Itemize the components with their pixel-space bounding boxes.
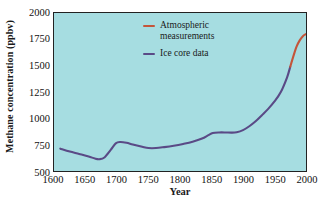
x-axis-title: Year bbox=[53, 186, 307, 197]
methane-concentration-chart: Methane concentration (ppbv) 50075010001… bbox=[0, 0, 329, 213]
x-tick-label-1850: 1850 bbox=[192, 174, 232, 185]
x-tick-label-2000: 2000 bbox=[287, 174, 327, 185]
curve-ice-core bbox=[60, 67, 290, 160]
legend-label-ice-core: Ice core data bbox=[160, 48, 209, 59]
x-tick-label-1900: 1900 bbox=[224, 174, 264, 185]
chart-legend: Atmospheric measurements Ice core data bbox=[143, 20, 258, 66]
y-axis-title: Methane concentration (ppbv) bbox=[0, 0, 18, 172]
curve-atmospheric bbox=[290, 34, 306, 67]
legend-swatch-ice-core bbox=[143, 53, 155, 56]
x-tick-label-1800: 1800 bbox=[160, 174, 200, 185]
x-tick-label-1650: 1650 bbox=[65, 174, 105, 185]
x-tick-label-1950: 1950 bbox=[255, 174, 295, 185]
x-tick-label-1700: 1700 bbox=[97, 174, 137, 185]
y-axis-title-text: Methane concentration (ppbv) bbox=[4, 20, 15, 153]
x-tick-label-1750: 1750 bbox=[128, 174, 168, 185]
legend-swatch-atmospheric bbox=[143, 25, 155, 28]
legend-label-atmospheric: Atmospheric measurements bbox=[160, 20, 258, 41]
x-tick-label-1600: 1600 bbox=[33, 174, 73, 185]
legend-item-atmospheric: Atmospheric measurements bbox=[143, 20, 258, 41]
legend-item-ice-core: Ice core data bbox=[143, 48, 258, 59]
